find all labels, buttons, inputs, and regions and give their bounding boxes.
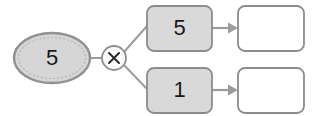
arrow-factor-top-to-result-top [212,23,238,34]
factor-box-bottom[interactable]: 1 [147,68,212,113]
result-box-bottom[interactable] [238,68,304,113]
source-value-node[interactable]: 5 [14,33,90,83]
factor-box-bottom-label: 1 [173,77,185,102]
source-value-label: 5 [46,45,58,70]
factor-box-top[interactable]: 5 [147,6,212,51]
connector-operator-to-factor-top [124,26,147,52]
diagram-canvas: 5 5 1 [0,0,316,116]
connector-operator-to-factor-bottom [124,65,147,89]
result-box-bottom-shape [238,68,304,113]
factor-box-top-label: 5 [173,15,185,40]
result-box-top-shape [238,6,304,51]
arrow-factor-bottom-to-result-bottom [212,85,238,96]
result-box-top[interactable] [238,6,304,51]
multiply-operator-node[interactable] [102,46,126,70]
